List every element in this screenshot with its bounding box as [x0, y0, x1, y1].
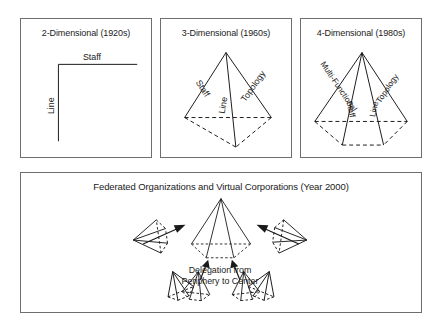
base-edge-left-dashed — [315, 121, 343, 145]
sat-base-right — [271, 242, 280, 253]
panel-federated-organizations: Federated Organizations and Virtual Corp… — [20, 172, 422, 313]
base-edge-right-front-dashed — [236, 118, 271, 148]
sat-base-back — [168, 287, 194, 297]
delegation-label-line-2: Periphery to Center — [182, 276, 259, 286]
line-label: Line — [46, 97, 56, 114]
sat-base-front — [273, 228, 275, 243]
center-edge-right — [221, 199, 251, 244]
center-pyramid — [191, 199, 250, 258]
sat-base-left — [275, 219, 284, 229]
base-edge-right-dashed — [384, 121, 408, 145]
sat-base-front — [189, 299, 201, 300]
line-label: Line — [368, 100, 380, 118]
satellite-pyramid-right — [271, 219, 309, 257]
sat-base-right — [201, 294, 210, 302]
arrow-head — [256, 225, 268, 233]
topology-label: Topology — [374, 72, 400, 105]
figure-canvas: 2-Dimensional (1920s) Staff Line 3-Dimen… — [0, 0, 448, 329]
sat-base-back — [248, 287, 274, 297]
sat-base-front — [253, 296, 264, 300]
federated-organizations-diagram: Delegation from Periphery to Center — [21, 173, 421, 312]
panel-four-dimensional: 4-Dimensional (1980s) Multi-Functional T… — [300, 18, 422, 158]
satellite-pyramid-left — [131, 219, 169, 257]
arrow-head — [174, 225, 186, 233]
center-base-right — [234, 244, 251, 258]
delegation-label-line-1: Delegation from — [189, 265, 252, 275]
sat-base-front — [241, 299, 253, 300]
sat-base-front — [165, 229, 167, 244]
two-dimensional-diagram: Staff Line — [21, 19, 151, 157]
sat-edge-right — [131, 220, 159, 240]
sat-edge-left — [281, 220, 309, 240]
three-dimensional-tetrahedron: Staff Topology Line — [161, 19, 291, 157]
four-dimensional-pyramid: Multi-Functional Topology Staff Line — [301, 19, 421, 157]
staff-label: Staff — [83, 52, 102, 62]
sat-edge-mid-left — [274, 228, 308, 240]
sat-edge-mid-left — [133, 235, 167, 247]
panel-three-dimensional: 3-Dimensional (1960s) Staff Topology Lin… — [160, 18, 292, 158]
sat-base-left — [232, 294, 241, 302]
center-base-left — [191, 244, 206, 258]
sat-edge-left — [133, 236, 161, 256]
sat-base-right — [264, 294, 274, 303]
sat-edge-mid-right — [132, 229, 166, 240]
center-edge-left — [191, 199, 221, 244]
center-edge-mid-right — [221, 199, 234, 258]
sat-edge-right — [279, 236, 307, 256]
base-edge-left-front-dashed — [185, 118, 236, 148]
sat-edge-mid-right — [273, 235, 307, 246]
center-edge-mid-left — [206, 199, 221, 258]
topology-label: Topology — [239, 68, 268, 103]
staff-label: Staff — [194, 78, 213, 99]
line-label: Line — [217, 96, 230, 114]
panel-two-dimensional: 2-Dimensional (1920s) Staff Line — [20, 18, 152, 158]
